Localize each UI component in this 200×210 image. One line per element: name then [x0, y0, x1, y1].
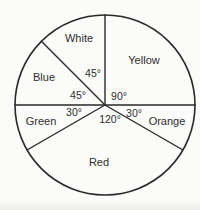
- sector-angle-label-red: 120°: [99, 113, 121, 125]
- sector-name-label-yellow: Yellow: [128, 54, 159, 66]
- sector-angle-label-yellow: 90°: [111, 90, 127, 102]
- sector-name-label-blue: Blue: [33, 71, 55, 83]
- sector-angle-label-blue: 45°: [70, 89, 86, 101]
- sector-name-label-white: White: [65, 32, 93, 44]
- sector-name-label-green: Green: [26, 115, 57, 127]
- sector-name-label-red: Red: [89, 156, 109, 168]
- sector-angle-label-orange: 30°: [126, 107, 142, 119]
- sector-angle-label-green: 30°: [66, 106, 82, 118]
- sector-angle-label-white: 45°: [85, 67, 101, 79]
- pie-chart-figure: Yellow90°Orange30°Red120°Green30°Blue45°…: [0, 0, 200, 210]
- sector-boundary-red: [105, 105, 183, 150]
- sector-name-label-orange: Orange: [149, 115, 186, 127]
- pie-chart: Yellow90°Orange30°Red120°Green30°Blue45°…: [0, 0, 200, 210]
